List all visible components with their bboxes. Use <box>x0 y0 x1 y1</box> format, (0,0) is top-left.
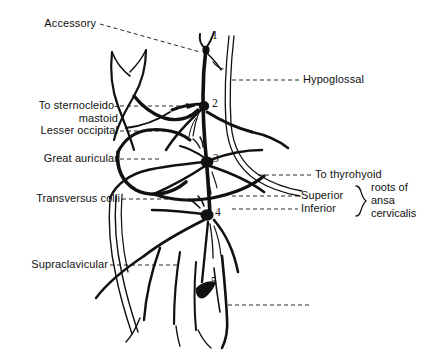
supraclavicular-fine-3 <box>198 330 211 348</box>
great-auricular-nerve <box>118 152 186 194</box>
label-lesser-occipital: Lesser occipital <box>0 124 118 137</box>
label-to-thyrohyoid: To thyrohyoid <box>315 168 382 181</box>
c3-branch-right-down <box>210 166 264 192</box>
leader-accessory <box>100 24 200 52</box>
label-ansa-cervicalis-line1: roots of <box>371 181 408 195</box>
hypoglossal-nerve-outer <box>225 36 300 196</box>
node-label-2: 2 <box>212 97 218 109</box>
lesser-occipital-nerve <box>126 112 170 128</box>
node-4-blob <box>200 209 213 221</box>
main-cervical-trunk <box>203 48 210 214</box>
node-label-3: 3 <box>213 152 219 164</box>
node-3-blob <box>201 156 214 167</box>
node-1-blob <box>202 46 209 54</box>
c3-antler-b <box>200 137 203 147</box>
supraclavicular-fine-2 <box>176 326 180 346</box>
node-2-blob <box>199 101 209 111</box>
node-label-5: 5 <box>211 275 217 287</box>
c4-branch-left-up <box>152 210 203 214</box>
root-c1-fork-a <box>200 34 205 48</box>
c4-fine-a <box>210 224 213 258</box>
c3-branch-left-horizontal <box>148 162 204 170</box>
c4-branch-left-down <box>144 220 204 256</box>
c3-branch-up-left <box>180 146 205 158</box>
hypoglossal-nerve-inner <box>230 36 302 191</box>
supraclavicular-branch-3 <box>195 262 197 330</box>
label-ansa-cervicalis-line3: cervicalis <box>371 207 416 221</box>
label-inferior: Inferior <box>301 202 336 215</box>
accessory-branch-left-fork <box>112 52 130 76</box>
lower-left-strand-c <box>121 194 128 272</box>
ansa-cervicalis-brace <box>356 186 366 216</box>
label-superior: Superior <box>301 189 343 202</box>
node-label-4: 4 <box>215 206 221 218</box>
label-hypoglossal: Hypoglossal <box>303 73 364 86</box>
supraclavicular-branch-2 <box>174 252 180 324</box>
c2-branch-lateral-right <box>207 112 252 132</box>
c2-branch-lateral-right-ext <box>252 132 288 148</box>
c3-fine-down-b <box>212 172 217 188</box>
c4-fine-b <box>214 226 221 256</box>
label-accessory: Accessory <box>18 17 96 30</box>
label-ansa-cervicalis-line2: ansa <box>371 194 395 208</box>
label-transversus-colli: Transversus colli <box>0 192 120 205</box>
label-to-sternocleidomastoid: To sternocleido- <box>0 99 118 112</box>
c4-branch-right-down <box>214 220 238 272</box>
c3-antler-a <box>193 139 200 148</box>
label-supraclavicular: Supraclavicular <box>0 258 108 271</box>
node-label-1: 1 <box>212 29 218 41</box>
label-great-auricular: Great auricular <box>0 152 118 165</box>
c4-branch-mid-down <box>202 222 208 282</box>
nerve-trunks <box>96 32 302 348</box>
phrenic-nerve <box>222 256 227 348</box>
supraclavicular-branch-1 <box>144 248 160 320</box>
c3-branch-left-lower <box>154 166 205 194</box>
